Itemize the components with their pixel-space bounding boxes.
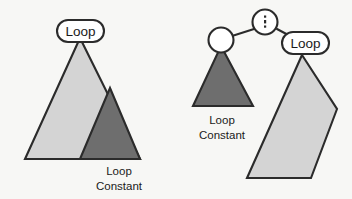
right-loop-oval-label: Loop [290,36,320,51]
left-diagram-group: Loop Loop Constant [25,20,143,192]
left-loop-constant-caption-line2: Constant [96,180,143,192]
right-loop-constant-caption-line2: Constant [199,129,246,141]
right-left-child-node-circle [209,28,234,53]
left-loop-oval-label: Loop [65,24,95,39]
right-loop-constant-triangle [193,46,253,106]
right-loop-constant-caption-line1: Loop [209,114,235,126]
left-loop-constant-caption-line1: Loop [106,165,132,177]
right-diagram-group: Loop Loop Constant [193,10,337,179]
right-loop-body-pentagon [247,55,337,178]
diagram-svg: Loop Loop Constant L [0,0,352,199]
diagram-canvas: Loop Loop Constant L [0,0,352,199]
edge-root-to-left-child [232,29,254,36]
vertical-ellipsis-icon [264,16,266,28]
